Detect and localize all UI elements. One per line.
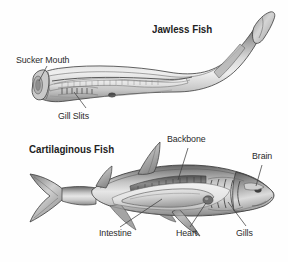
lamprey-caudal-fin — [253, 12, 275, 44]
label-backbone: Backbone — [167, 134, 206, 144]
shark-heart — [203, 196, 213, 204]
shark-head — [233, 172, 274, 211]
cartilaginous-fish-illustration — [30, 142, 274, 236]
label-gills: Gills — [236, 228, 253, 238]
label-sucker-mouth: Sucker Mouth — [16, 55, 69, 65]
label-heart: Heart — [176, 228, 197, 238]
heading-cartilaginous-fish: Cartilaginous Fish — [29, 144, 114, 154]
label-brain: Brain — [252, 151, 272, 161]
shark-caudal-fin — [30, 174, 66, 222]
heading-jawless-fish: Jawless Fish — [152, 24, 212, 34]
shark-caudal-peduncle — [62, 187, 96, 206]
illustration-canvas — [0, 0, 288, 262]
label-intestine: Intestine — [99, 228, 132, 238]
label-gill-slits: Gill Slits — [58, 111, 89, 121]
fish-anatomy-figure: Jawless Fish Sucker Mouth Gill Slits Car… — [0, 0, 288, 262]
